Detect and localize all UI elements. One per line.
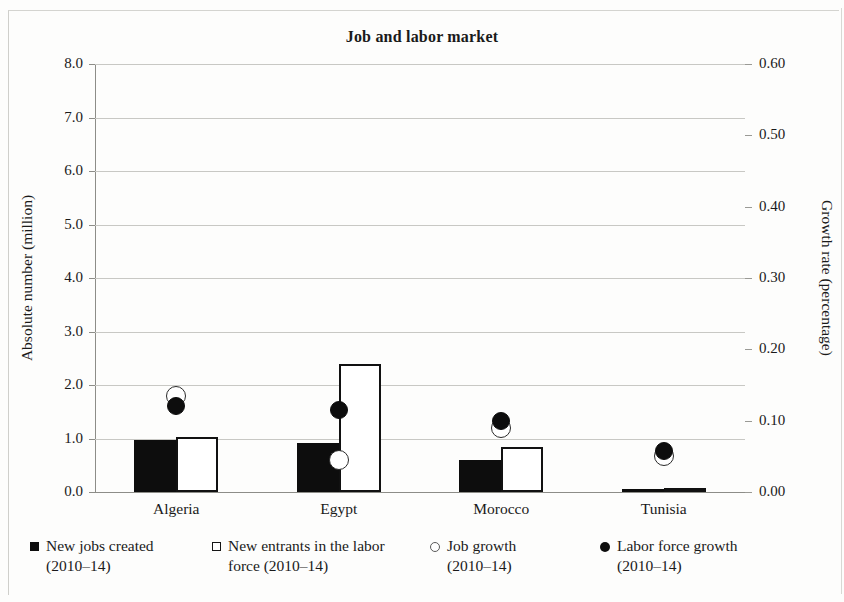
legend-item[interactable]: New entrants in the labor force (2010–14… (212, 536, 427, 577)
left-axis-tick (89, 225, 95, 226)
gridline (95, 171, 745, 172)
left-axis-tick-label: 7.0 (23, 110, 83, 125)
x-axis-tick-label: Tunisia (583, 500, 746, 518)
x-axis-tick-label: Algeria (95, 500, 258, 518)
legend-open-circle-icon (430, 542, 440, 552)
legend-item-label: Labor force growth (2010–14) (617, 536, 738, 577)
right-axis-tick-label: 0.40 (759, 199, 819, 214)
left-axis-tick (89, 385, 95, 386)
gridline (95, 225, 745, 226)
gridline (95, 278, 745, 279)
left-axis-tick-label: 2.0 (23, 377, 83, 392)
legend-item-label: Job growth (2010–14) (447, 536, 516, 577)
right-axis-tick (745, 135, 752, 136)
figure-canvas: Job and labor market Absolute number (mi… (0, 0, 844, 602)
legend-item-label: New entrants in the labor force (2010–14… (228, 536, 385, 577)
marker-labor-force-growth (330, 401, 348, 419)
left-axis-tick-label: 5.0 (23, 217, 83, 232)
gridline (95, 385, 745, 386)
left-axis-tick-label: 1.0 (23, 431, 83, 446)
left-axis-tick-label: 6.0 (23, 163, 83, 178)
left-axis-tick (89, 171, 95, 172)
legend-item-label: New jobs created (2010–14) (46, 536, 154, 577)
bar-new-entrants-labor-force (176, 437, 218, 492)
left-axis-tick (89, 278, 95, 279)
right-axis-title-text: Growth rate (percentage) (818, 200, 836, 356)
scan-border-right (841, 8, 842, 594)
gridline (95, 332, 745, 333)
bar-new-jobs-created (134, 440, 176, 492)
bar-new-jobs-created (622, 489, 664, 492)
bar-new-jobs-created (459, 460, 501, 492)
legend-item[interactable]: Job growth (2010–14) (430, 536, 595, 577)
legend-filled-square-icon (30, 542, 39, 551)
gridline (95, 118, 745, 119)
x-axis-tick-label: Morocco (420, 500, 583, 518)
x-axis-tick-label: Egypt (258, 500, 421, 518)
right-axis-tick (745, 278, 752, 279)
marker-job-growth (329, 450, 349, 470)
right-axis-tick (745, 421, 752, 422)
left-axis-tick-label: 0.0 (23, 484, 83, 499)
bar-new-entrants-labor-force (664, 488, 706, 492)
right-axis-title: Growth rate (percentage) (816, 64, 838, 492)
right-axis-tick-label: 0.30 (759, 270, 819, 285)
left-axis-tick (89, 439, 95, 440)
right-axis-tick-label: 0.50 (759, 127, 819, 142)
marker-labor-force-growth (167, 397, 185, 415)
right-axis-tick-label: 0.60 (759, 56, 819, 71)
left-axis-tick-label: 8.0 (23, 56, 83, 71)
left-axis-tick (89, 64, 95, 65)
bar-new-entrants-labor-force (501, 447, 543, 492)
right-axis-tick (745, 207, 752, 208)
left-axis-tick (89, 492, 95, 493)
legend-filled-circle-icon (600, 542, 610, 552)
right-axis-tick (745, 492, 752, 493)
right-axis-tick-label: 0.20 (759, 341, 819, 356)
right-axis-tick (745, 349, 752, 350)
bar-new-entrants-labor-force (339, 364, 381, 492)
plot-area (95, 64, 745, 492)
right-axis-tick (745, 64, 752, 65)
left-axis-tick-label: 3.0 (23, 324, 83, 339)
left-axis-tick-label: 4.0 (23, 270, 83, 285)
legend-item[interactable]: New jobs created (2010–14) (30, 536, 210, 577)
chart-title: Job and labor market (0, 28, 844, 46)
left-axis-tick (89, 332, 95, 333)
right-axis-tick-label: 0.00 (759, 484, 819, 499)
right-axis-tick-label: 0.10 (759, 413, 819, 428)
left-axis-tick (89, 118, 95, 119)
legend-item[interactable]: Labor force growth (2010–14) (600, 536, 830, 577)
gridline (95, 492, 745, 493)
chart-legend: New jobs created (2010–14)New entrants i… (30, 536, 830, 594)
marker-labor-force-growth (492, 412, 510, 430)
marker-labor-force-growth (655, 442, 673, 460)
gridline (95, 64, 745, 65)
legend-open-square-icon (212, 542, 221, 551)
